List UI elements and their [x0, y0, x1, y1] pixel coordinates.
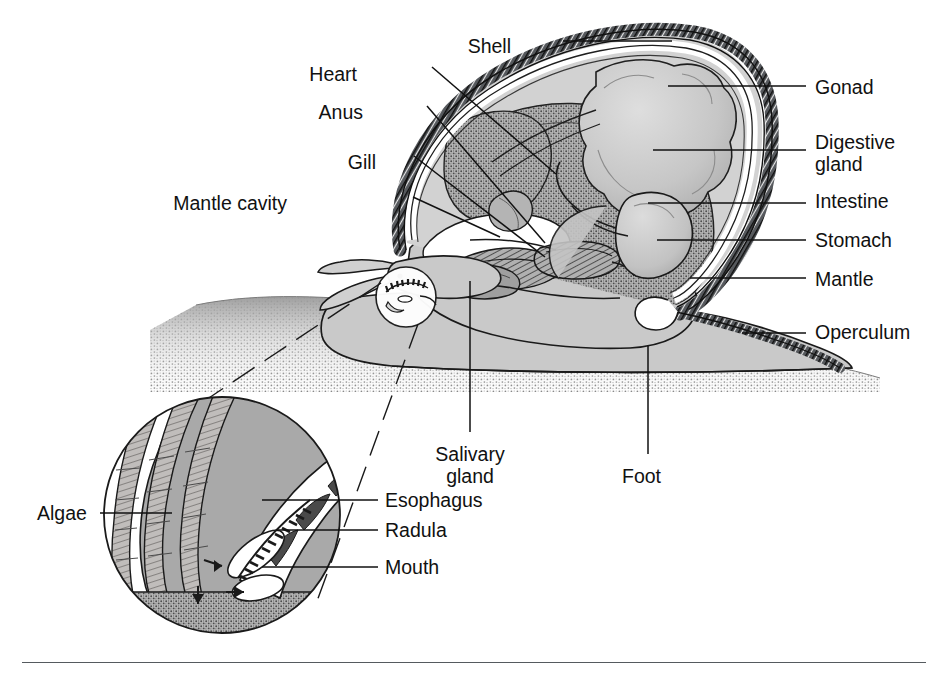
label-foot: Foot	[622, 465, 661, 487]
label-mantle-cavity: Mantle cavity	[137, 192, 287, 214]
heart	[489, 191, 533, 231]
label-shell: Shell	[441, 35, 511, 57]
label-intestine: Intestine	[815, 190, 889, 212]
label-stomach: Stomach	[815, 229, 892, 251]
label-esophagus: Esophagus	[385, 489, 483, 511]
callout-circle	[376, 267, 436, 327]
label-heart: Heart	[287, 63, 357, 85]
radula-inset	[104, 376, 424, 640]
label-anus: Anus	[293, 101, 363, 123]
anatomy-illustration	[0, 0, 948, 678]
snail-anatomy-figure: Shell Heart Anus Gill Mantle cavity Gona…	[0, 0, 948, 678]
label-operculum: Operculum	[815, 321, 910, 343]
label-gonad: Gonad	[815, 76, 874, 98]
label-gill: Gill	[316, 151, 376, 173]
label-digestive-gland: Digestive gland	[815, 131, 895, 175]
label-radula: Radula	[385, 519, 447, 541]
label-algae: Algae	[37, 502, 87, 524]
figure-bottom-rule	[22, 662, 926, 663]
label-mantle: Mantle	[815, 268, 874, 290]
label-salivary-gland: Salivary gland	[400, 443, 540, 487]
label-mouth: Mouth	[385, 556, 439, 578]
